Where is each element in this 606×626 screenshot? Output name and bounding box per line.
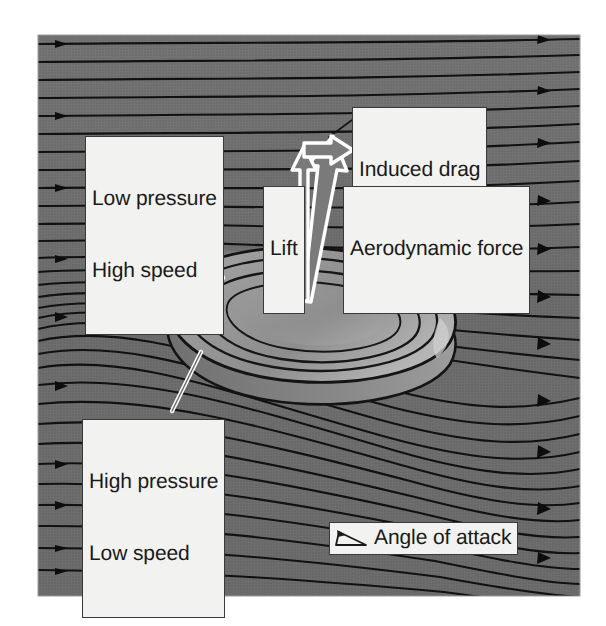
- low-pressure-line2: High speed: [92, 259, 217, 283]
- figure-container: Low pressure High speed High pressure Lo…: [0, 0, 606, 626]
- high-pressure-line2: Low speed: [89, 542, 218, 566]
- low-pressure-line1: Low pressure: [92, 187, 217, 211]
- callout-angle-of-attack: Angle of attack: [329, 522, 518, 555]
- aerodynamic-force-text: Aerodynamic force: [350, 237, 523, 261]
- callout-low-pressure: Low pressure High speed: [85, 136, 224, 335]
- angle-of-attack-text: Angle of attack: [374, 526, 511, 550]
- callout-lift: Lift: [263, 186, 305, 314]
- angle-of-attack-icon: [334, 528, 368, 548]
- callout-high-pressure: High pressure Low speed: [82, 419, 225, 618]
- high-pressure-line1: High pressure: [89, 470, 218, 494]
- lift-text: Lift: [270, 237, 298, 261]
- callout-aerodynamic-force: Aerodynamic force: [343, 186, 530, 314]
- induced-drag-text: Induced drag: [359, 158, 480, 182]
